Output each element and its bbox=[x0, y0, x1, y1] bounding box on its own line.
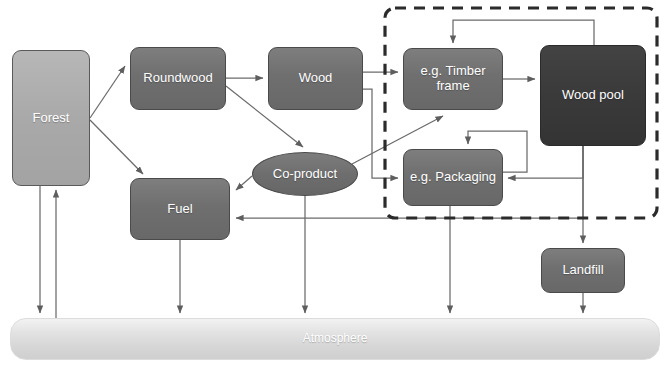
node-timber-frame[interactable]: e.g. Timber frame bbox=[403, 48, 503, 110]
edge-forest-fuel bbox=[90, 120, 143, 174]
node-fuel[interactable]: Fuel bbox=[130, 178, 230, 240]
node-co-product-label: Co-product bbox=[273, 167, 337, 182]
node-packaging[interactable]: e.g. Packaging bbox=[403, 149, 503, 206]
node-atmosphere-label: Atmosphere bbox=[303, 332, 368, 345]
node-wood-label: Wood bbox=[299, 71, 333, 86]
node-roundwood-label: Roundwood bbox=[143, 71, 212, 86]
node-wood-pool-label: Wood pool bbox=[562, 88, 624, 103]
node-fuel-label: Fuel bbox=[167, 202, 192, 217]
node-atmosphere[interactable]: Atmosphere bbox=[10, 318, 660, 360]
node-landfill-label: Landfill bbox=[562, 263, 603, 278]
node-forest-label: Forest bbox=[33, 111, 70, 126]
edge-woodpool-packaging bbox=[508, 146, 583, 178]
diagram-canvas: Forest Roundwood Wood Co-product Fuel e.… bbox=[0, 0, 669, 374]
node-packaging-label: e.g. Packaging bbox=[410, 170, 496, 185]
node-forest[interactable]: Forest bbox=[12, 50, 90, 186]
edge-woodpool-timber-recycle bbox=[453, 20, 594, 45]
edge-coproduct-fuel bbox=[236, 176, 252, 190]
edge-forest-roundwood bbox=[90, 66, 125, 118]
node-timber-frame-label: e.g. Timber frame bbox=[404, 64, 502, 93]
node-co-product[interactable]: Co-product bbox=[252, 152, 358, 196]
node-wood[interactable]: Wood bbox=[268, 47, 363, 110]
node-roundwood[interactable]: Roundwood bbox=[130, 47, 226, 110]
node-landfill[interactable]: Landfill bbox=[541, 248, 625, 293]
edge-wood-packaging bbox=[363, 89, 398, 178]
node-wood-pool[interactable]: Wood pool bbox=[540, 45, 646, 146]
